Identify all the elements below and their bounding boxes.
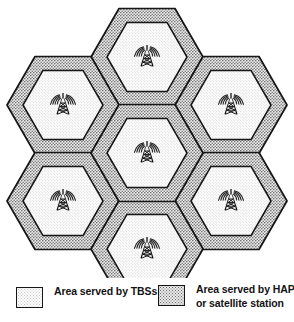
legend-item-tbs: Area served by TBSs	[16, 285, 157, 308]
legend-label-tbs: Area served by TBSs	[54, 285, 157, 299]
cellular-coverage-figure: Area served by TBSs Area served by HAPs …	[0, 0, 294, 322]
legend-item-hap: Area served by HAPs or satellite station	[158, 283, 294, 310]
legend: Area served by TBSs Area served by HAPs …	[0, 282, 294, 320]
legend-swatch-hap	[158, 285, 185, 306]
legend-swatch-tbs	[16, 287, 43, 308]
hexagon-grid	[0, 0, 294, 278]
legend-label-hap: Area served by HAPs or satellite station	[196, 283, 294, 310]
legend-label-tbs-line1: Area served by TBSs	[54, 285, 157, 299]
legend-label-hap-line1: Area served by HAPs	[196, 283, 294, 297]
legend-label-hap-line2: or satellite station	[196, 297, 294, 311]
